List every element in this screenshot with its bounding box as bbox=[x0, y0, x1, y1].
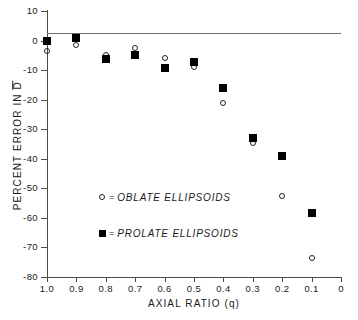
x-tick-label: 0.7 bbox=[120, 283, 150, 294]
y-axis-title-symbol: D bbox=[12, 81, 24, 89]
open-circle-icon bbox=[96, 191, 108, 203]
y-tick-mark bbox=[41, 129, 47, 130]
y-tick-label: -80 bbox=[12, 271, 38, 282]
x-axis-title: AXIAL RATIO (q) bbox=[47, 298, 341, 309]
x-tick-label: 1.0 bbox=[32, 283, 62, 294]
x-tick-mark bbox=[194, 277, 195, 282]
data-point-square bbox=[161, 64, 169, 72]
x-tick-mark bbox=[165, 277, 166, 282]
x-tick-mark bbox=[282, 277, 283, 282]
y-tick-mark bbox=[41, 188, 47, 189]
x-tick-label: 0.9 bbox=[61, 283, 91, 294]
x-tick-label: 0.4 bbox=[208, 283, 238, 294]
data-point-circle bbox=[279, 193, 285, 199]
x-tick-mark bbox=[47, 277, 48, 282]
x-tick-label: 0 bbox=[326, 283, 356, 294]
x-tick-label: 0.5 bbox=[179, 283, 209, 294]
y-axis-title-prefix: PERCENT ERROR IN bbox=[12, 90, 23, 211]
legend-item-oblate: = OBLATE ELLIPSOIDS bbox=[96, 186, 271, 208]
y-tick-mark bbox=[41, 247, 47, 248]
data-point-square bbox=[72, 34, 80, 42]
y-tick-mark bbox=[41, 218, 47, 219]
data-point-square bbox=[102, 55, 110, 63]
data-point-square bbox=[43, 37, 51, 45]
data-point-circle bbox=[309, 255, 315, 261]
x-tick-label: 0.6 bbox=[150, 283, 180, 294]
y-tick-mark bbox=[41, 159, 47, 160]
x-tick-mark bbox=[135, 277, 136, 282]
data-point-square bbox=[308, 209, 316, 217]
legend-equals-sign: = bbox=[109, 228, 114, 238]
data-point-circle bbox=[220, 100, 226, 106]
y-tick-mark bbox=[41, 11, 47, 12]
x-tick-mark bbox=[106, 277, 107, 282]
data-point-square bbox=[278, 152, 286, 160]
y-tick-label: -70 bbox=[12, 241, 38, 252]
x-tick-mark bbox=[341, 277, 342, 282]
filled-square-icon bbox=[96, 227, 108, 239]
x-tick-label: 0.1 bbox=[297, 283, 327, 294]
x-tick-label: 0.3 bbox=[238, 283, 268, 294]
x-tick-mark bbox=[76, 277, 77, 282]
x-tick-label: 0.8 bbox=[91, 283, 121, 294]
x-tick-label: 0.2 bbox=[267, 283, 297, 294]
data-point-square bbox=[131, 51, 139, 59]
y-tick-mark bbox=[41, 100, 47, 101]
data-point-square bbox=[249, 134, 257, 142]
x-tick-mark bbox=[223, 277, 224, 282]
legend-label-oblate: OBLATE ELLIPSOIDS bbox=[117, 192, 230, 203]
y-tick-label: 0 bbox=[12, 35, 38, 46]
y-axis-title: PERCENT ERROR IN D bbox=[12, 66, 24, 226]
y-tick-label: 10 bbox=[12, 5, 38, 16]
legend-item-prolate: = PROLATE ELLIPSOIDS bbox=[96, 222, 271, 244]
x-tick-mark bbox=[312, 277, 313, 282]
data-point-square bbox=[190, 58, 198, 66]
zero-reference-line bbox=[47, 33, 341, 34]
data-point-circle bbox=[162, 55, 168, 61]
legend-label-prolate: PROLATE ELLIPSOIDS bbox=[117, 228, 238, 239]
y-tick-mark bbox=[41, 70, 47, 71]
chart-figure: 100-10-20-30-40-50-60-70-80 1.00.90.80.7… bbox=[0, 0, 358, 320]
data-point-circle bbox=[73, 42, 79, 48]
legend: = OBLATE ELLIPSOIDS = PROLATE ELLIPSOIDS bbox=[96, 186, 271, 244]
data-point-circle bbox=[44, 48, 50, 54]
x-tick-mark bbox=[253, 277, 254, 282]
legend-equals-sign: = bbox=[109, 192, 114, 202]
data-point-square bbox=[219, 84, 227, 92]
data-point-circle bbox=[132, 45, 138, 51]
